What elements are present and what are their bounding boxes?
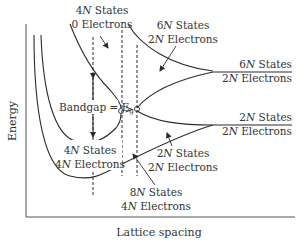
label-6n-states-2n-electrons-right: 6N States 2N Electrons <box>222 58 292 84</box>
svg-text:2N Electrons: 2N Electrons <box>222 72 292 84</box>
y-axis-label: Energy <box>6 100 19 141</box>
label-4n-states-0-electrons: 4N States 0 Electrons <box>72 4 133 30</box>
label-2n-states-2n-electrons-mid: 2N States 2N Electrons <box>148 147 218 173</box>
svg-text:4N Electrons: 4N Electrons <box>121 200 191 212</box>
label-6n-states-2n-electrons-top: 6N States 2N Electrons <box>148 19 218 45</box>
svg-text:4N Electrons: 4N Electrons <box>55 158 125 170</box>
svg-text:2N Electrons: 2N Electrons <box>222 125 292 137</box>
svg-text:4N States: 4N States <box>76 4 129 16</box>
label-bandgap: Bandgap = Eg <box>58 100 134 115</box>
upper-split-curve-bottom <box>137 111 213 125</box>
svg-text:2N Electrons: 2N Electrons <box>148 161 218 173</box>
arrow-4n-0e <box>100 36 108 48</box>
svg-text:4N States: 4N States <box>64 144 117 156</box>
svg-text:2N Electrons: 2N Electrons <box>148 33 218 45</box>
label-2n-states-2n-electrons-right: 2N States 2N Electrons <box>222 111 292 137</box>
svg-text:6N States: 6N States <box>239 58 292 70</box>
svg-text:2N States: 2N States <box>239 111 292 123</box>
svg-text:2N States: 2N States <box>157 147 210 159</box>
label-8n-states-4n-electrons: 8N States 4N Electrons <box>121 186 191 212</box>
band-diagram: Energy Lattice spacing > 4N States <box>0 0 306 244</box>
svg-text:Bandgap = Eg: Bandgap = Eg <box>59 101 134 115</box>
arrow-6n-2e <box>160 46 176 71</box>
svg-text:6N States: 6N States <box>157 19 210 31</box>
arrow-2n-2e <box>167 133 172 146</box>
top-band-curve <box>128 24 213 71</box>
label-4n-states-4n-electrons: 4N States 4N Electrons <box>55 140 125 170</box>
x-axis-label: Lattice spacing <box>116 226 201 239</box>
svg-text:8N States: 8N States <box>130 186 183 198</box>
svg-text:0 Electrons: 0 Electrons <box>72 18 133 30</box>
conduction-band-curve <box>70 24 121 108</box>
